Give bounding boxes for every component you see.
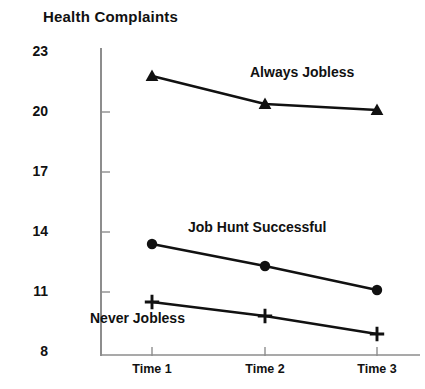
plot-area <box>0 0 425 389</box>
series-label-always-jobless: Always Jobless <box>250 64 354 80</box>
data-point-plus-2 <box>258 309 272 323</box>
x-tick-label-time-2: Time 2 <box>245 362 284 376</box>
data-point-plus-1 <box>145 295 159 309</box>
x-tick-label-time-1: Time 1 <box>132 362 171 376</box>
series-layer <box>145 70 384 342</box>
health-complaints-line-chart: Health Complaints 23 20 17 14 11 8 Time … <box>0 0 425 389</box>
data-point-plus-3 <box>370 327 384 341</box>
data-point-circle-3 <box>372 285 382 295</box>
data-point-triangle-1 <box>146 70 159 81</box>
series-label-job-hunt-successful: Job Hunt Successful <box>188 219 326 235</box>
x-tick-label-time-3: Time 3 <box>357 362 396 376</box>
series-label-never-jobless: Never Jobless <box>90 310 185 326</box>
series-job-hunt-successful <box>147 239 382 295</box>
y-axis-ticks <box>101 112 110 292</box>
data-point-circle-1 <box>147 239 157 249</box>
data-point-circle-2 <box>260 261 270 271</box>
